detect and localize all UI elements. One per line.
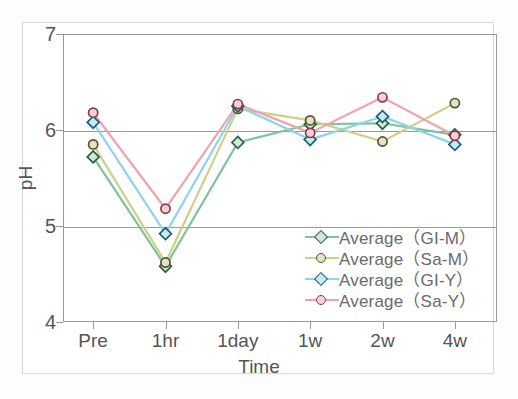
chart-legend: Average（GI-M） Average（Sa-M） Average（GI-Y… <box>305 226 491 310</box>
legend-marker-sa-y-icon <box>305 291 339 309</box>
x-axis-title: Time <box>0 356 518 378</box>
chart-screenshot: 7654Pre1hr1day1w2w4w pH Time Average（GI-… <box>0 0 518 399</box>
legend-marker-gi-y-icon <box>305 270 339 288</box>
legend-item[interactable]: Average（GI-M） <box>305 226 491 247</box>
legend-item[interactable]: Average（GI-Y） <box>305 268 491 289</box>
legend-marker-gi-m-icon <box>305 228 339 246</box>
legend-label: Average（Sa-Y） <box>339 287 476 312</box>
legend-marker-sa-m-icon <box>305 249 339 267</box>
gridline <box>64 131 496 132</box>
y-axis-title: pH <box>15 148 37 208</box>
legend-item[interactable]: Average（Sa-Y） <box>305 289 491 310</box>
legend-item[interactable]: Average（Sa-M） <box>305 247 491 268</box>
